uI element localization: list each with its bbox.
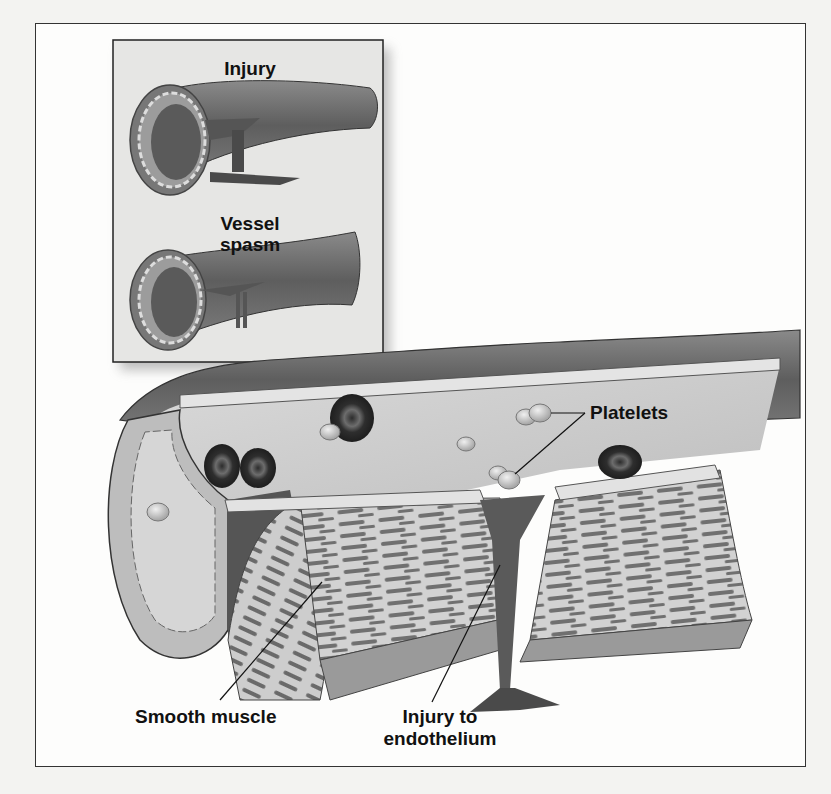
label-injury-to-endothelium: Injury to endothelium xyxy=(370,706,510,750)
inset-label-injury: Injury xyxy=(200,58,300,79)
inset-label-vessel-spasm-line2: spasm xyxy=(200,234,300,255)
vessel-illustration xyxy=(0,0,831,794)
label-injury-line1: Injury to xyxy=(370,706,510,728)
label-smooth-muscle: Smooth muscle xyxy=(135,706,276,728)
main-vessel xyxy=(108,330,800,712)
platelet xyxy=(320,424,340,440)
platelet xyxy=(147,503,169,521)
platelet xyxy=(457,437,475,451)
red-blood-cell xyxy=(240,448,276,488)
label-injury-line2: endothelium xyxy=(370,728,510,750)
inset-label-vessel-spasm-line1: Vessel xyxy=(200,213,300,234)
red-blood-cell xyxy=(204,444,240,488)
label-platelets: Platelets xyxy=(590,402,668,424)
inset-box xyxy=(113,40,383,362)
inset-label-vessel-spasm: Vessel spasm xyxy=(200,213,300,255)
red-blood-cell xyxy=(598,445,642,479)
platelet xyxy=(529,404,551,422)
platelet xyxy=(498,471,520,489)
